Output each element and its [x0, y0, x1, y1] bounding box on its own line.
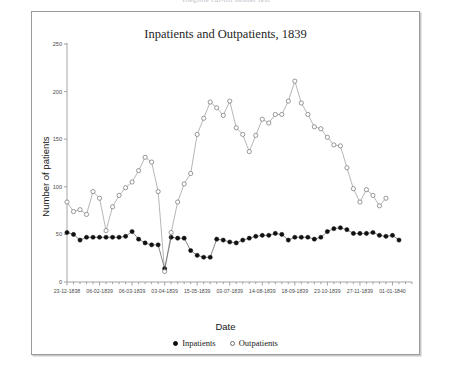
legend-label-inpatients: Inpatients — [182, 338, 216, 348]
svg-text:27-11-1839: 27-11-1839 — [347, 288, 373, 294]
svg-text:50: 50 — [56, 231, 62, 237]
svg-text:03-07-1839: 03-07-1839 — [216, 288, 243, 294]
svg-text:15-05-1839: 15-05-1839 — [184, 288, 211, 294]
legend-label-outpatients: Outpatients — [239, 338, 278, 348]
svg-text:100: 100 — [53, 184, 62, 190]
svg-text:03-04-1839: 03-04-1839 — [151, 288, 178, 294]
open-circle-icon — [230, 341, 235, 346]
svg-text:200: 200 — [53, 89, 62, 95]
legend-entry-outpatients: Outpatients — [230, 338, 278, 348]
svg-text:14-08-1839: 14-08-1839 — [249, 288, 276, 294]
svg-text:150: 150 — [53, 136, 62, 142]
chart-canvas: Inpatients and Outpatients, 1839 Number … — [31, 11, 420, 355]
legend: Inpatients Outpatients — [31, 338, 420, 348]
svg-text:06-03-1839: 06-03-1839 — [119, 288, 146, 294]
svg-text:06-02-1839: 06-02-1839 — [86, 288, 113, 294]
svg-text:01-01-1840: 01-01-1840 — [379, 288, 406, 294]
svg-text:23-12-1838: 23-12-1838 — [54, 288, 81, 294]
header-strip: illegible cut-off header text — [0, 0, 453, 9]
filled-circle-icon — [173, 341, 178, 346]
svg-text:0: 0 — [59, 279, 62, 285]
plot-area: 05010015020025023-12-183806-02-183906-03… — [31, 11, 420, 355]
svg-text:18-09-1839: 18-09-1839 — [282, 288, 309, 294]
svg-text:250: 250 — [53, 41, 62, 47]
legend-entry-inpatients: Inpatients — [173, 338, 216, 348]
header-faint-text: illegible cut-off header text — [0, 0, 453, 4]
svg-text:23-10-1839: 23-10-1839 — [314, 288, 341, 294]
